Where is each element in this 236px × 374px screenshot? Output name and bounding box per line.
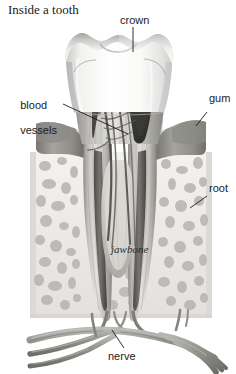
label-nerve: nerve [108, 350, 136, 363]
label-blood-vessels-line2: vessels [20, 124, 57, 136]
label-blood-vessels-line1: blood [20, 99, 47, 111]
label-crown: crown [120, 14, 149, 27]
figure-page: Inside a tooth [0, 0, 236, 374]
label-blood-vessels: blood vessels [8, 86, 57, 149]
label-root: root [209, 182, 228, 195]
label-gum: gum [209, 92, 230, 105]
tooth-cross-section-illustration [0, 0, 236, 374]
nerve-bundles [30, 310, 226, 372]
label-jawbone: jawbone [111, 243, 148, 256]
crown-enamel [66, 33, 173, 115]
